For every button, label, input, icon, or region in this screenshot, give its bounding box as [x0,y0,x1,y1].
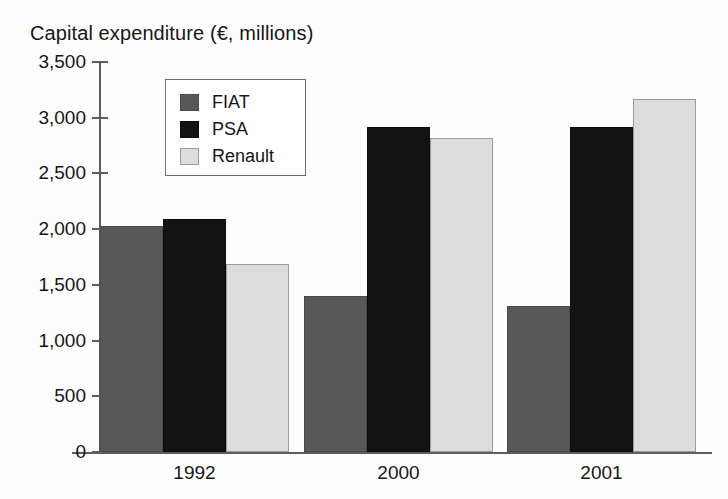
y-axis-tick-label: 1,500 [0,274,86,296]
x-axis-category-label: 1992 [173,462,215,484]
legend-entry-fiat[interactable]: FIAT [180,89,305,115]
bar-renault-1992 [226,264,289,452]
bar-psa-1992 [163,219,226,452]
y-axis-tick-label: 2,500 [0,162,86,184]
y-axis-tick-label: 3,000 [0,107,86,129]
legend-swatch-icon [180,121,199,138]
y-axis-tick-label: 500 [0,385,86,407]
bar-fiat-2001 [507,306,570,452]
legend-label: FIAT [212,92,250,113]
y-axis-tick-label: 0 [0,441,86,463]
legend-label: PSA [212,119,248,140]
legend-swatch-icon [180,94,199,111]
bar-renault-2001 [633,99,696,452]
y-axis-tick-label: 1,000 [0,330,86,352]
legend-label: Renault [212,146,274,167]
x-axis-category-label: 2001 [580,462,622,484]
bar-group [304,62,493,452]
chart-legend: FIATPSARenault [165,79,306,176]
legend-swatch-icon [180,148,199,165]
bar-fiat-1992 [100,226,163,452]
y-axis-tick-label: 3,500 [0,51,86,73]
bar-fiat-2000 [304,296,367,452]
bar-group [507,62,696,452]
x-axis-line [72,452,712,454]
y-axis-tick-label: 2,000 [0,218,86,240]
x-axis-category-label: 2000 [377,462,419,484]
bar-psa-2001 [570,127,633,452]
legend-entry-renault[interactable]: Renault [180,143,305,169]
y-axis-tick-labels: 05001,0001,5002,0002,5003,0003,500 [0,0,86,499]
bar-renault-2000 [430,138,493,452]
bar-chart-figure: Capital expenditure (€, millions) 05001,… [0,0,728,499]
legend-entry-psa[interactable]: PSA [180,116,305,142]
bar-psa-2000 [367,127,430,452]
